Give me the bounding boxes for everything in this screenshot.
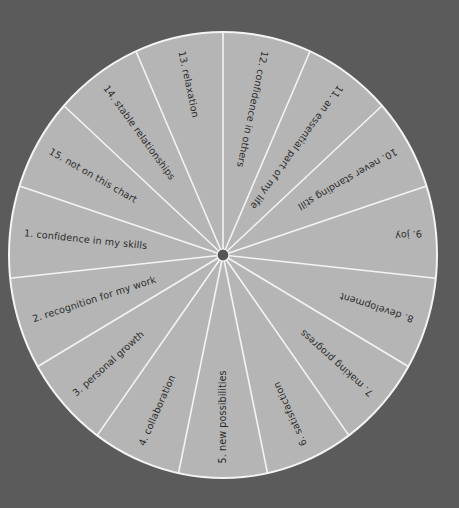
- center-hub-icon: [217, 249, 229, 261]
- wheel-diagram: 1. confidence in my skills2. recognition…: [0, 0, 459, 508]
- wheel-chart: 1. confidence in my skills2. recognition…: [0, 0, 459, 508]
- segment-label-5: 5. new possibilities: [217, 370, 228, 463]
